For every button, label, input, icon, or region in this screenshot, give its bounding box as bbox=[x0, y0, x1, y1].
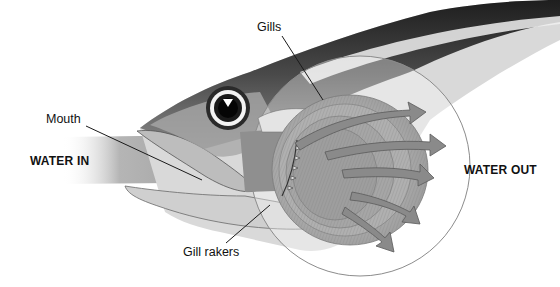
label-water-out: WATER OUT bbox=[464, 163, 537, 177]
label-mouth: Mouth bbox=[46, 112, 81, 126]
label-gill-rakers: Gill rakers bbox=[183, 245, 239, 259]
label-water-in: WATER IN bbox=[30, 154, 89, 168]
fish-gill-diagram: Gills Mouth WATER IN WATER OUT Gill rake… bbox=[0, 0, 560, 287]
fish-illustration bbox=[0, 0, 560, 287]
fish-eye bbox=[206, 86, 250, 130]
label-gills: Gills bbox=[257, 20, 281, 34]
